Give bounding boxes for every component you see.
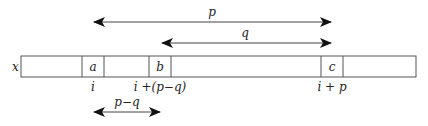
index-i-plus-p-minus-q-label: i +(p−q) <box>134 80 187 94</box>
arrow-p-minus-q: p−q <box>94 95 160 112</box>
array-x: x a b c <box>12 56 416 77</box>
index-i-label: i <box>91 80 95 94</box>
arrow-p-label: p <box>208 5 216 19</box>
diagram-canvas: p q x a b c i i +(p−q) i + p p−q <box>0 0 428 126</box>
array-outline <box>21 56 416 77</box>
array-cell-b: b <box>149 56 171 77</box>
arrow-q: q <box>162 26 331 43</box>
array-cell-a: a <box>82 56 104 77</box>
array-cell-c: c <box>321 56 343 77</box>
cell-a-label: a <box>89 60 96 74</box>
cell-c-label: c <box>329 60 336 74</box>
cell-b-label: b <box>156 60 164 74</box>
string-period-diagram: p q x a b c i i +(p−q) i + p p−q <box>0 0 428 126</box>
arrow-p-minus-q-label: p−q <box>114 95 140 109</box>
array-label: x <box>12 60 19 74</box>
index-i-plus-p-label: i + p <box>317 80 347 94</box>
arrow-q-label: q <box>241 26 249 40</box>
arrow-p: p <box>94 5 331 22</box>
